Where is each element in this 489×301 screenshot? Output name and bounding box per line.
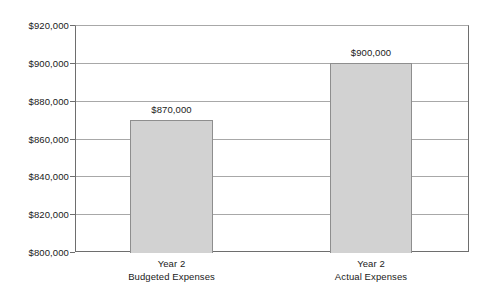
bar-value-label: $900,000 [351, 47, 391, 58]
category-label-line-1: Year 2 [335, 258, 407, 271]
bar[interactable] [130, 120, 213, 253]
bar[interactable] [330, 63, 412, 253]
y-axis-tick-label: $800,000 [29, 247, 69, 258]
y-axis-tick-mark [70, 176, 75, 177]
y-axis-tick-label: $860,000 [29, 133, 69, 144]
y-axis-tick-label: $880,000 [29, 95, 69, 106]
plot-area [75, 25, 469, 252]
y-axis-tick-label: $840,000 [29, 171, 69, 182]
bar-value-label: $870,000 [151, 104, 191, 115]
y-axis-tick-mark [70, 25, 75, 26]
category-label-line-2: Budgeted Expenses [128, 271, 215, 284]
y-axis-tick-mark [70, 63, 75, 64]
category-label-line-2: Actual Expenses [335, 271, 407, 284]
y-axis-tick-label: $900,000 [29, 57, 69, 68]
y-axis-tick-mark [70, 101, 75, 102]
y-axis-tick-label: $820,000 [29, 209, 69, 220]
bar-chart: $800,000$820,000$840,000$860,000$880,000… [0, 0, 489, 301]
category-label: Year 2Budgeted Expenses [128, 258, 215, 283]
y-axis-tick-mark [70, 139, 75, 140]
category-label-line-1: Year 2 [128, 258, 215, 271]
y-axis-tick-labels: $800,000$820,000$840,000$860,000$880,000… [0, 0, 69, 301]
y-axis-tick-mark [70, 252, 75, 253]
category-label: Year 2Actual Expenses [335, 258, 407, 283]
y-axis-tick-label: $920,000 [29, 20, 69, 31]
y-axis-tick-mark [70, 214, 75, 215]
